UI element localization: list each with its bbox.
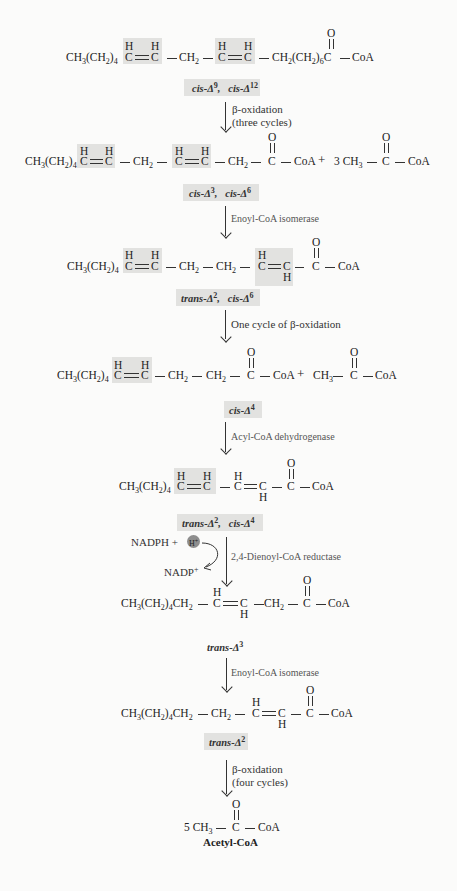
carbonyl-double-bond <box>249 358 254 368</box>
carbonyl-double-bond <box>234 810 239 820</box>
single-bond <box>259 58 269 59</box>
single-bond <box>272 487 282 488</box>
carbon: C <box>234 480 242 492</box>
carbon: C <box>177 480 185 492</box>
single-bond <box>166 267 176 268</box>
methylene: CH2 <box>211 707 231 724</box>
single-bond <box>245 828 255 829</box>
hydrogen: H <box>240 608 248 620</box>
methylene: CH2 <box>216 260 236 277</box>
bond-label: cis-Δ4 <box>229 403 255 416</box>
single-bond <box>235 714 245 715</box>
alkyl-chain: CH3(CH2)4 <box>119 480 171 497</box>
carbon: C <box>213 597 221 609</box>
arrow-head-icon <box>220 443 231 454</box>
oxygen: O <box>232 798 240 810</box>
carbon: C <box>306 707 314 719</box>
single-bond <box>203 58 213 59</box>
carbon: C <box>80 155 88 167</box>
arrow-label: (four cycles) <box>232 776 288 788</box>
oxygen: O <box>247 346 255 358</box>
single-bond <box>395 162 405 163</box>
arrow-head-icon <box>221 785 232 796</box>
coenzyme-a: CoA <box>338 260 360 272</box>
carbon: C <box>350 369 358 381</box>
single-bond <box>319 714 329 715</box>
coenzyme-a: CoA <box>294 155 316 167</box>
carbon: C <box>141 369 149 381</box>
single-bond <box>220 487 230 488</box>
enzyme-label: Enoyl-CoA isomerase <box>231 667 319 678</box>
carbonyl-double-bond <box>289 469 294 479</box>
double-bond <box>185 159 199 164</box>
arrow-head-icon <box>220 227 231 238</box>
arrow-label: One cycle of β-oxidation <box>231 318 341 330</box>
hydrogen: H <box>283 271 291 283</box>
oxygen: O <box>350 346 358 358</box>
carbon: C <box>201 155 209 167</box>
carbon: C <box>151 51 159 63</box>
coenzyme-a: CoA <box>258 821 280 833</box>
carbonyl-double-bond <box>270 143 275 153</box>
methylene: CH2 <box>206 369 226 386</box>
carbon: C <box>218 51 226 63</box>
carbon: C <box>175 155 183 167</box>
carbonyl-double-bond <box>384 143 389 153</box>
coenzyme-a: CoA <box>273 369 295 381</box>
carbon: C <box>247 369 255 381</box>
carbon: C <box>151 260 159 272</box>
alkyl-chain: CH3(CH2)4 <box>57 369 109 386</box>
carbon: C <box>303 597 311 609</box>
coenzyme-a: CoA <box>331 707 353 719</box>
single-bond <box>295 267 304 268</box>
arrow-label: β-oxidation <box>232 103 283 115</box>
hydrogen: H <box>278 718 286 730</box>
oxygen: O <box>312 236 320 248</box>
single-bond <box>216 828 226 829</box>
carbonyl-double-bond <box>308 696 313 706</box>
carbon: C <box>114 369 122 381</box>
single-bond <box>198 604 208 605</box>
double-bond <box>228 55 242 60</box>
methylene: CH2 <box>133 155 153 172</box>
carbon: C <box>105 155 113 167</box>
methylene: CH2 <box>264 597 284 614</box>
single-bond <box>367 162 377 163</box>
arrow-head-icon <box>221 575 232 586</box>
carbonyl-double-bond <box>305 586 310 596</box>
oxygen: O <box>327 27 335 39</box>
carbonyl-double-bond <box>314 248 319 258</box>
double-bond <box>135 264 149 269</box>
single-bond <box>316 604 326 605</box>
coenzyme-a: CoA <box>312 480 334 492</box>
arrow-head-icon <box>220 121 231 132</box>
single-bond <box>340 58 350 59</box>
arrow-label: β-oxidation <box>232 763 283 775</box>
single-bond <box>254 604 264 605</box>
carbon: C <box>244 51 252 63</box>
carbon: C <box>125 260 133 272</box>
hydrogen: H <box>259 491 267 503</box>
plus-sign: + <box>318 154 325 166</box>
single-bond <box>198 714 208 715</box>
arrow-head-icon <box>220 331 231 342</box>
methylene: CH2 <box>228 155 248 172</box>
carbon: C <box>125 51 133 63</box>
acetyl-coa-byproduct: 3 CH3 <box>334 155 363 172</box>
single-bond <box>240 267 250 268</box>
single-bond <box>300 487 310 488</box>
alkyl-chain: CH3(CH2)4 <box>25 155 77 172</box>
curved-arrow-icon <box>196 540 230 576</box>
coenzyme-a: CoA <box>328 597 350 609</box>
bond-label: cis-Δ9, cis-Δ12 <box>192 81 258 94</box>
methylene: CH2 <box>179 51 199 68</box>
nadp-label: NADP+ <box>164 565 198 578</box>
bond-label: trans-Δ2 <box>209 735 245 748</box>
carbonyl-double-bond <box>352 358 357 368</box>
alkyl-chain: CH3(CH2)4CH2 <box>121 597 193 614</box>
single-bond <box>291 714 301 715</box>
coenzyme-a: CoA <box>408 155 430 167</box>
carbon: C <box>287 480 295 492</box>
carbon: C <box>203 480 211 492</box>
chain-segment: CH2(CH2)6C <box>272 51 331 68</box>
